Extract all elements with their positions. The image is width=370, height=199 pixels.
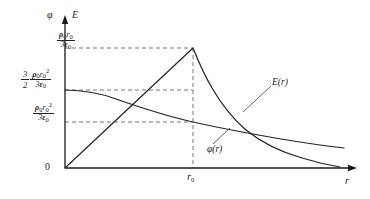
x-axis-arrowhead [348, 165, 357, 171]
mid-expression: 3 2 ρ0r02 3ε0 [21, 70, 51, 89]
y-axis-arrowhead [62, 15, 68, 24]
y-tick-label-low: ρ0r02 3ε0 [33, 104, 54, 122]
curve-E-of-r [65, 48, 340, 168]
curve-label-E-of-r: E(r) [272, 78, 288, 88]
three-halves-numerator: 3 [21, 70, 29, 80]
leader-line-phi [213, 128, 230, 144]
three-halves-denominator: 2 [21, 80, 29, 89]
y-axis-label-phi: φ [47, 10, 53, 20]
fraction-mid: ρ0r02 3ε0 [30, 71, 51, 89]
leader-line-E [243, 86, 271, 112]
x-tick-label-r0: r0 [187, 172, 194, 182]
fraction-three-halves: 3 2 [21, 70, 29, 89]
fraction-top-numerator: ρ0r0 [57, 31, 75, 41]
origin-label: 0 [45, 162, 50, 172]
plot-canvas [0, 0, 370, 199]
x-axis-label-r: r [345, 176, 349, 186]
r0-subscript: 0 [191, 176, 194, 183]
y-tick-label-top: ρ0r0 3ε0 [57, 31, 75, 49]
fraction-top-denominator: 3ε0 [57, 41, 75, 50]
y-axis-label-E: E [72, 10, 78, 20]
fraction-low-denominator: 3ε0 [33, 114, 54, 123]
figure-container: φ E r 0 r0 ρ0r0 3ε0 3 2 ρ0r02 3ε0 ρ0r02 … [0, 0, 370, 199]
fraction-low: ρ0r02 3ε0 [33, 104, 54, 122]
curve-label-phi-of-r: φ(r) [207, 145, 222, 155]
fraction-top: ρ0r0 3ε0 [57, 31, 75, 49]
y-tick-label-mid: 3 2 ρ0r02 3ε0 [21, 70, 51, 89]
curve-phi-of-r [65, 90, 344, 148]
fraction-mid-denominator: 3ε0 [30, 80, 51, 89]
